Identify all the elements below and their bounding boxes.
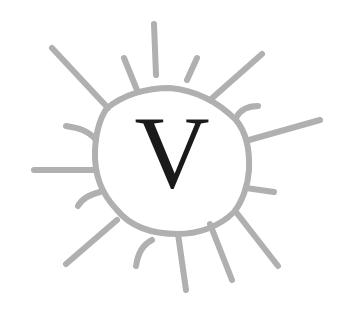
sun-logo: V <box>0 0 346 310</box>
logo-letter: V <box>130 100 214 204</box>
